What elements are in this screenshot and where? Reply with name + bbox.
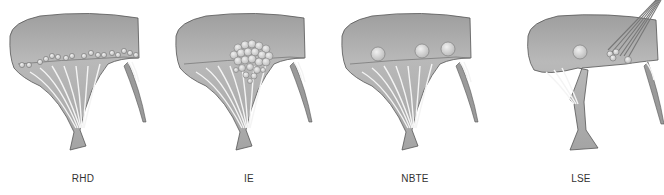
valve-illustration-rhd (0, 0, 166, 170)
valve-illustration-nbte (332, 0, 498, 170)
panel-lse: LSE (498, 0, 664, 195)
panel-label-nbte: NBTE (332, 173, 498, 184)
panel-rhd: RHD (0, 0, 166, 195)
panel-nbte: NBTE (332, 0, 498, 195)
valve-illustration-ie (166, 0, 332, 170)
panel-ie: IE (166, 0, 332, 195)
panel-label-rhd: RHD (0, 173, 166, 184)
panel-label-ie: IE (166, 173, 332, 184)
valve-illustration-lse (498, 0, 664, 170)
panel-label-lse: LSE (498, 173, 664, 184)
